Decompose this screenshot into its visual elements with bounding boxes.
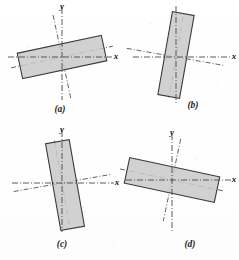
y-axis-label-d: y [169,127,175,137]
y-axis-label-a: y [59,1,65,11]
x-axis-label-a: x [113,51,119,61]
panel-b: x(b) [120,6,237,111]
lamina-rectangle-c [46,140,85,231]
figure-canvas: yx(a)x(b)yx(c)yx(d) [0,0,239,260]
panel-d: yx(d) [111,127,236,250]
panel-caption-c: (c) [57,239,68,250]
x-axis-label-c: x [114,177,120,187]
panel-caption-b: (b) [187,100,198,111]
x-axis-label-d: x [231,174,237,184]
y-axis-label-c: y [59,124,65,134]
principal-axes-figure: yx(a)x(b)yx(c)yx(d) [0,0,239,260]
panel-caption-a: (a) [54,104,65,115]
panel-a: yx(a) [2,1,122,115]
panel-c: yx(c) [6,124,119,250]
panel-caption-d: (d) [184,239,195,250]
x-axis-label-b: x [231,51,237,61]
